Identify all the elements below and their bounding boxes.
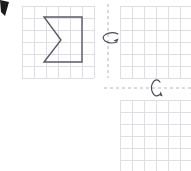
page-corner-mark (0, 0, 9, 16)
answer-grid-bottom-right (120, 100, 191, 171)
chevron-polygon (44, 17, 82, 62)
rotation-arrow-vertical (103, 33, 118, 43)
worksheet-svg (0, 0, 191, 171)
answer-grid-top-right (120, 6, 191, 78)
worksheet-canvas (0, 0, 191, 171)
